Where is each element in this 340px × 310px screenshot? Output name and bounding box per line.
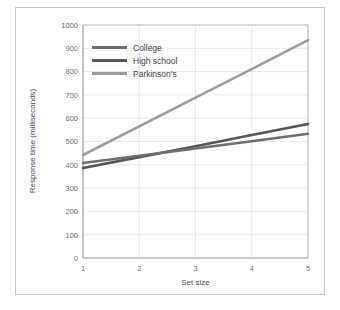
legend: College High school Parkinson's (92, 43, 178, 79)
y-tick-400: 400 (65, 161, 78, 170)
legend-label-parkinsons: Parkinson's (133, 69, 177, 79)
y-tick-600: 600 (65, 114, 78, 123)
y-tick-200: 200 (65, 207, 78, 216)
y-axis-title: Response time (milliseconds) (28, 88, 37, 193)
y-tick-100: 100 (65, 231, 78, 240)
y-tick-labels: 1000 900 800 700 600 500 400 300 200 100… (61, 21, 78, 263)
y-tick-900: 900 (65, 44, 78, 53)
y-tick-800: 800 (65, 67, 78, 76)
legend-label-high-school: High school (133, 56, 178, 66)
y-tick-700: 700 (65, 91, 78, 100)
y-tick-300: 300 (65, 184, 78, 193)
legend-label-college: College (133, 43, 162, 53)
x-tick-3: 3 (193, 264, 197, 273)
x-tick-5: 5 (306, 264, 310, 273)
y-tick-500: 500 (65, 137, 78, 146)
x-tick-labels: 1 2 3 4 5 (81, 264, 310, 273)
figure-container: 1000 900 800 700 600 500 400 300 200 100… (0, 0, 340, 310)
y-tick-1000: 1000 (61, 21, 78, 30)
x-axis-title: Set size (181, 278, 210, 287)
y-tick-0: 0 (74, 254, 78, 263)
x-tick-4: 4 (250, 264, 254, 273)
line-chart: 1000 900 800 700 600 500 400 300 200 100… (0, 0, 340, 310)
x-tick-2: 2 (137, 264, 141, 273)
x-tick-1: 1 (81, 264, 85, 273)
